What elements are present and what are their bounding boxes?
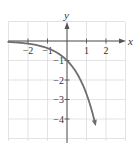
x-tick-label: −2 [23,45,34,56]
y-axis-arrow-icon [65,22,70,29]
y-tick-label: −2 [53,75,64,86]
y-axis-label: y [63,9,69,21]
x-axis-label: x [127,35,133,47]
x-tick-label: 2 [104,45,109,56]
x-tick-label: 1 [84,45,89,56]
ticks: −2−112−1−2−3−4 [23,39,109,125]
y-tick-label: −4 [53,114,64,125]
x-axis-arrow-icon [119,39,126,44]
curve-arrow-icon [92,120,97,126]
y-tick-label: −3 [53,94,64,105]
function-graph: x y −2−112−1−2−3−4 [0,0,135,143]
axes: x y [8,9,133,143]
